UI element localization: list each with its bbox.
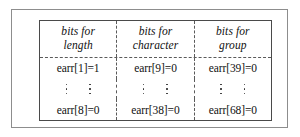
header-label-group: bits for group <box>216 25 250 52</box>
header-cell-group: bits for group <box>194 21 271 57</box>
table-body: earr[1]=1 earr[9]=0 earr[39]=0 <box>40 58 271 120</box>
bit-array-table: bits for length bits for character bits … <box>39 20 272 121</box>
cell-character-first: earr[9]=0 <box>116 58 193 79</box>
cell-length-first: earr[1]=1 <box>40 58 116 79</box>
vertical-ellipsis-icon <box>117 84 193 95</box>
header-group-line1: bits for <box>216 25 250 39</box>
header-group-line2: group <box>216 39 250 53</box>
table-row: earr[8]=0 earr[38]=0 earr[68]=0 <box>40 99 271 120</box>
header-character-line2: character <box>133 39 179 53</box>
vertical-ellipsis-icon <box>195 84 271 95</box>
cell-value: earr[39]=0 <box>209 62 257 74</box>
cell-length-ellipsis <box>40 79 116 100</box>
cell-value: earr[1]=1 <box>57 62 100 74</box>
cell-value: earr[8]=0 <box>57 104 100 116</box>
cell-group-last: earr[68]=0 <box>194 99 271 120</box>
cell-character-last: earr[38]=0 <box>116 99 193 120</box>
cell-length-last: earr[8]=0 <box>40 99 116 120</box>
cell-group-first: earr[39]=0 <box>194 58 271 79</box>
vertical-ellipsis-icon <box>40 84 116 95</box>
cell-value: earr[38]=0 <box>131 104 179 116</box>
cell-value: earr[68]=0 <box>209 104 257 116</box>
cell-character-ellipsis <box>116 79 193 100</box>
table-row-ellipsis <box>40 79 271 100</box>
header-label-character: bits for character <box>133 25 179 52</box>
header-length-line2: length <box>61 39 95 53</box>
header-cell-length: bits for length <box>40 21 116 57</box>
header-label-length: bits for length <box>61 25 95 52</box>
table-header-row: bits for length bits for character bits … <box>40 21 271 58</box>
cell-value: earr[9]=0 <box>134 62 177 74</box>
table-row: earr[1]=1 earr[9]=0 earr[39]=0 <box>40 58 271 79</box>
header-length-line1: bits for <box>61 25 95 39</box>
header-character-line1: bits for <box>133 25 179 39</box>
cell-group-ellipsis <box>194 79 271 100</box>
figure-outer-frame: bits for length bits for character bits … <box>11 9 288 128</box>
header-cell-character: bits for character <box>116 21 193 57</box>
